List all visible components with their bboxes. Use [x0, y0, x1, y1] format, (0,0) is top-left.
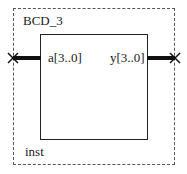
output-pin-x-icon[interactable]: [168, 51, 182, 65]
instance-name: inst: [25, 145, 44, 158]
input-pin-x-icon[interactable]: [6, 51, 20, 65]
symbol-name: BCD_3: [23, 14, 63, 27]
input-port-label: a[3..0]: [48, 51, 82, 64]
output-port-label: y[3..0]: [110, 51, 145, 64]
